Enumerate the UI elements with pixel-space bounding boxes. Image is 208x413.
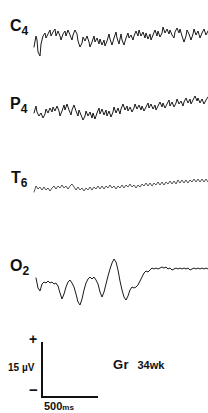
- amplitude-scale-line: [41, 342, 43, 398]
- eeg-figure: C4 P4 T6 O2 + − 15 µV 500ms: [0, 0, 208, 413]
- subject-age: 34wk: [137, 359, 164, 371]
- eeg-trace-o2-path: [36, 259, 208, 305]
- time-scale-unit: ms: [62, 403, 74, 412]
- time-scale-label: 500ms: [44, 401, 74, 412]
- polarity-negative-marker: −: [29, 382, 38, 397]
- time-scale-line: [41, 396, 98, 398]
- subject-annotation: Gr 34wk: [113, 357, 164, 372]
- subject-name: Gr: [113, 357, 129, 372]
- calibration-bar: + − 15 µV 500ms: [0, 330, 208, 413]
- polarity-positive-marker: +: [29, 332, 37, 346]
- amplitude-scale-label: 15 µV: [8, 363, 34, 373]
- time-scale-value: 500: [44, 400, 62, 412]
